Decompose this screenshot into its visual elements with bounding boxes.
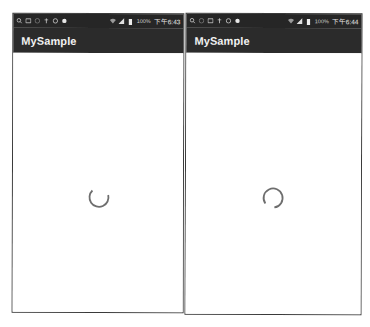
battery-percentage: 100% [137, 18, 151, 24]
battery-percentage: 100% [315, 18, 329, 24]
notification-icons [189, 18, 240, 24]
bell-icon [234, 18, 240, 24]
usb-icon [216, 18, 222, 24]
image-icon [25, 18, 31, 24]
wifi-icon [110, 18, 116, 24]
phone-screen-right: 100% 下午6:44 MySample [184, 13, 362, 316]
app-title: MySample [194, 34, 249, 46]
notification-icons [16, 18, 67, 24]
phone-screen-left: 100% 下午6:43 MySample [12, 13, 185, 313]
search-icon [189, 18, 195, 24]
usb-icon [43, 18, 49, 24]
image-icon [207, 18, 213, 24]
signal-icon [297, 18, 303, 24]
system-icons: 100% 下午6:43 [110, 16, 181, 26]
status-bar: 100% 下午6:44 [186, 14, 361, 29]
bell-icon [61, 18, 67, 24]
app-toolbar: MySample [186, 28, 361, 54]
circle-icon [34, 18, 40, 24]
circle-icon [198, 18, 204, 24]
clock: 下午6:44 [332, 16, 359, 26]
wifi-icon [288, 18, 294, 24]
loading-spinner-icon [260, 185, 286, 211]
app-toolbar: MySample [13, 28, 183, 53]
content-area [185, 53, 361, 315]
system-icons: 100% 下午6:44 [288, 16, 359, 26]
battery-icon [128, 18, 134, 24]
shield-icon [52, 18, 58, 24]
battery-icon [306, 18, 312, 24]
content-area [13, 53, 184, 312]
signal-icon [119, 18, 125, 24]
clock: 下午6:43 [154, 16, 181, 26]
progress-spinner [260, 185, 286, 211]
search-icon [16, 18, 22, 24]
loading-spinner-icon [86, 184, 112, 210]
status-bar: 100% 下午6:43 [13, 14, 183, 28]
progress-spinner [86, 184, 112, 210]
shield-icon [225, 18, 231, 24]
app-title: MySample [21, 34, 76, 46]
